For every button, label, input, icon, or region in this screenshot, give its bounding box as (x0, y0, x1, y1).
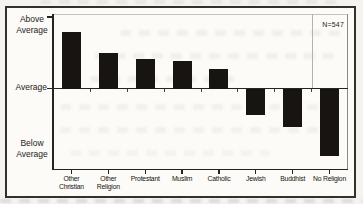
baseline-tick (164, 89, 165, 92)
scanned-bar-chart-figure: { "figure": { "n_label": "N=547", "y_axi… (0, 0, 363, 204)
x-axis-tick (218, 170, 219, 174)
x-axis-tick (255, 170, 256, 174)
baseline-tick (201, 89, 202, 92)
scan-artifact (40, 0, 340, 4)
y-label-above-average: Above Average (9, 14, 55, 35)
baseline-tick (274, 89, 275, 92)
x-axis-tick (292, 170, 293, 174)
plot-right-border (347, 14, 348, 170)
scan-artifact (0, 199, 363, 203)
x-axis-line (52, 169, 348, 170)
x-axis-tick (108, 170, 109, 174)
bar-catholic (209, 69, 228, 89)
x-axis-tick (181, 170, 182, 174)
no-religion-divider-line (312, 14, 313, 89)
x-axis-tick (71, 170, 72, 174)
bar-jewish (246, 89, 265, 115)
bar-other-religion (99, 53, 118, 89)
bar-other-christian (62, 32, 81, 89)
baseline-tick (311, 89, 312, 92)
sample-size-annotation: N=547 (322, 21, 344, 28)
bar-buddhist (283, 89, 302, 127)
bar-protestant (136, 59, 155, 89)
scan-artifact (95, 53, 340, 59)
scan-artifact (120, 30, 340, 36)
bar-muslim (173, 61, 192, 89)
scan-artifact (70, 150, 270, 156)
scan-artifact (60, 127, 340, 133)
bar-no-religion (320, 89, 339, 156)
baseline-tick (237, 89, 238, 92)
x-axis-tick (145, 170, 146, 174)
plot-top-border (53, 14, 348, 15)
y-label-below-average: Below Average (9, 138, 55, 159)
y-axis-tick-average (47, 88, 53, 89)
baseline-tick (90, 89, 91, 92)
y-label-average: Average (9, 82, 47, 93)
x-axis-tick (329, 170, 330, 174)
category-label-no-religion: No Religion (304, 175, 356, 183)
baseline-tick (127, 89, 128, 92)
